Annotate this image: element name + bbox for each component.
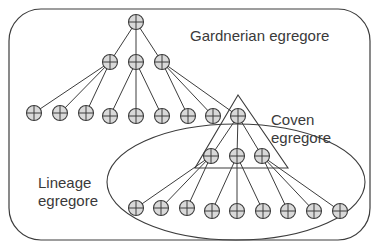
circle-plus-icon xyxy=(155,55,170,70)
coven-label-line2: egregore xyxy=(271,129,331,147)
circle-plus-icon xyxy=(79,106,94,121)
circle-plus-icon xyxy=(27,106,42,121)
gardnerian-label-text: Gardnerian egregore xyxy=(190,27,329,44)
circle-plus-icon xyxy=(230,204,245,219)
tree-edge xyxy=(262,156,288,211)
tree-edge xyxy=(162,62,188,116)
circle-plus-icon xyxy=(255,149,270,164)
circle-plus-icon xyxy=(333,204,348,219)
circle-plus-icon xyxy=(53,106,68,121)
coven-label-line1: Coven xyxy=(271,111,331,129)
lineage-label-line1: Lineage xyxy=(38,174,98,192)
circle-plus-icon xyxy=(231,109,246,124)
circle-plus-icon xyxy=(103,55,118,70)
circle-plus-icon xyxy=(129,201,144,216)
circle-plus-icon xyxy=(206,109,221,124)
gardnerian-egregore-label: Gardnerian egregore xyxy=(190,27,329,45)
circle-plus-icon xyxy=(154,201,169,216)
coven-egregore-label: Coven egregore xyxy=(271,111,331,147)
tree-edge xyxy=(136,156,211,208)
tree-edge xyxy=(136,62,162,116)
circle-plus-icon xyxy=(230,149,245,164)
circle-plus-icon xyxy=(129,109,144,124)
circle-plus-icon xyxy=(181,109,196,124)
circle-plus-icon xyxy=(205,204,220,219)
circle-plus-icon xyxy=(204,149,219,164)
tree-edge xyxy=(34,62,110,113)
lineage-egregore-label: Lineage egregore xyxy=(38,174,98,210)
circle-plus-icon xyxy=(256,204,271,219)
circle-plus-icon xyxy=(281,204,296,219)
tree-edge xyxy=(110,62,136,116)
tree-edge xyxy=(262,156,340,211)
tree-edge xyxy=(262,156,314,211)
circle-plus-icon xyxy=(155,109,170,124)
tree-edge xyxy=(237,156,263,211)
circle-plus-icon xyxy=(307,204,322,219)
circle-plus-icon xyxy=(129,15,144,30)
tree-edge xyxy=(162,62,238,116)
tree-edge xyxy=(212,156,237,211)
circle-plus-icon xyxy=(103,109,118,124)
circle-plus-icon xyxy=(129,55,144,70)
lineage-label-line2: egregore xyxy=(38,192,98,210)
circle-plus-icon xyxy=(180,201,195,216)
tree-edge xyxy=(162,62,213,116)
